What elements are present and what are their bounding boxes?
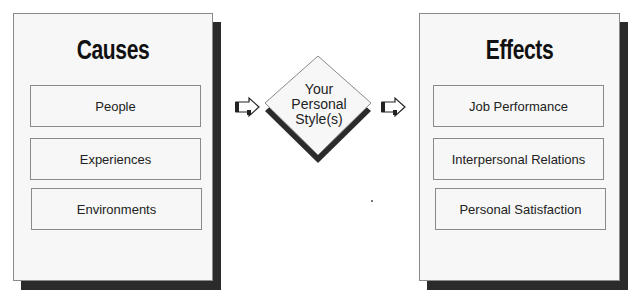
- scan-speck: [371, 200, 373, 202]
- effects-item-personal-satisfaction: Personal Satisfaction: [435, 188, 606, 230]
- diamond-line: Your: [262, 82, 376, 97]
- causes-item-label: People: [95, 99, 135, 114]
- personal-style-diamond: Your Personal Style(s): [262, 52, 376, 168]
- effects-title: Effects: [442, 35, 597, 66]
- right-arrow-icon: [232, 95, 262, 119]
- diamond-line: Style(s): [262, 112, 376, 127]
- causes-item-environments: Environments: [31, 188, 202, 230]
- causes-item-experiences: Experiences: [30, 138, 201, 180]
- causes-panel: Causes People Experiences Environments: [13, 13, 213, 281]
- right-arrow-icon: [378, 95, 408, 119]
- effects-panel: Effects Job Performance Interpersonal Re…: [419, 13, 620, 281]
- causes-item-label: Environments: [77, 202, 156, 217]
- causes-item-people: People: [30, 85, 201, 127]
- effects-item-label: Personal Satisfaction: [459, 202, 581, 217]
- effects-item-label: Interpersonal Relations: [452, 152, 586, 167]
- diamond-label: Your Personal Style(s): [262, 82, 376, 127]
- effects-item-label: Job Performance: [469, 99, 568, 114]
- causes-item-label: Experiences: [80, 152, 152, 167]
- effects-item-job-performance: Job Performance: [433, 85, 604, 127]
- diamond-line: Personal: [262, 97, 376, 112]
- effects-item-interpersonal-relations: Interpersonal Relations: [433, 138, 604, 180]
- causes-title: Causes: [36, 35, 190, 66]
